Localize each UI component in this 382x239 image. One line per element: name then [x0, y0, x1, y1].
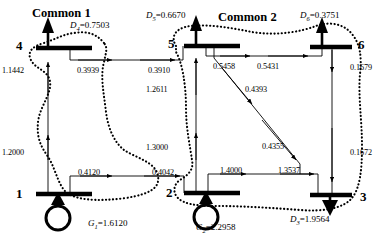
demand-label-d3: D3=1.9564 [290, 214, 330, 226]
common-1-label: Common 1 [32, 6, 91, 21]
generator-value-g2: 2.2958 [211, 222, 236, 232]
demand-sub-d3: 3 [297, 219, 300, 226]
flow-label-1-2-a: 0.4120 [78, 168, 100, 177]
bus-node-4: 4 [16, 38, 23, 54]
demand-sub-d4: 4 [77, 25, 80, 32]
flow-label-6-3-a: 0.1679 [350, 63, 372, 72]
flow-label-2-3-a: 1.4000 [220, 166, 242, 175]
demand-value-d4: 0.7503 [85, 20, 110, 30]
generator-sub-g1: 1 [95, 223, 98, 230]
common-2-label: Common 2 [218, 10, 277, 25]
flow-label-1-4: 1.1442 [2, 66, 24, 75]
flow-label-2-5-b: 1.3000 [146, 143, 168, 152]
flow-label-5-6-a: 0.5458 [213, 62, 235, 71]
bus-node-5: 5 [168, 36, 175, 52]
diagram-svg [0, 0, 382, 239]
demand-sub-d5: 5 [153, 15, 156, 22]
flow-label-2-3-b: 1.3537 [278, 166, 300, 175]
flow-label-5-3-a: 0.4393 [245, 85, 267, 94]
demand-value-d6: 0.3751 [315, 10, 340, 20]
bus-node-2: 2 [166, 185, 173, 201]
demand-label-d6: D6=0.3751 [300, 10, 340, 22]
flow-label-5-6-b: 0.5431 [257, 62, 279, 71]
bus-node-6: 6 [358, 37, 365, 53]
flow-label-4-5-b: 0.3910 [148, 66, 170, 75]
generator-label-g1: G1=1.6120 [88, 218, 128, 230]
generator-value-g1: 1.6120 [103, 218, 128, 228]
flow-label-6-3-b: 0.1672 [350, 148, 372, 157]
demand-value-d3: 1.9564 [305, 214, 330, 224]
demand-label-d4: D4=0.7503 [70, 20, 110, 32]
bus-node-3: 3 [360, 189, 367, 205]
flow-label-5-2-a: 1.2611 [146, 85, 168, 94]
flow-label-5-3-b: 0.4355 [262, 142, 284, 151]
generator-label-g2: G2=2.2958 [196, 222, 236, 234]
generator-sub-g2: 2 [203, 227, 206, 234]
demand-sub-d6: 6 [307, 15, 310, 22]
demand-label-d5: D5=0.6670 [146, 10, 186, 22]
bus-node-1: 1 [16, 186, 23, 202]
flow-label-1-2-b: 0.4042 [152, 168, 174, 177]
diagram-canvas: Common 1 Common 2 4 5 6 1 2 3 D4=0.7503 … [0, 0, 382, 239]
demand-value-d5: 0.6670 [161, 10, 186, 20]
flow-label-4-5-a: 0.3939 [77, 66, 99, 75]
flow-label-1-4-b: 1.2000 [2, 148, 24, 157]
